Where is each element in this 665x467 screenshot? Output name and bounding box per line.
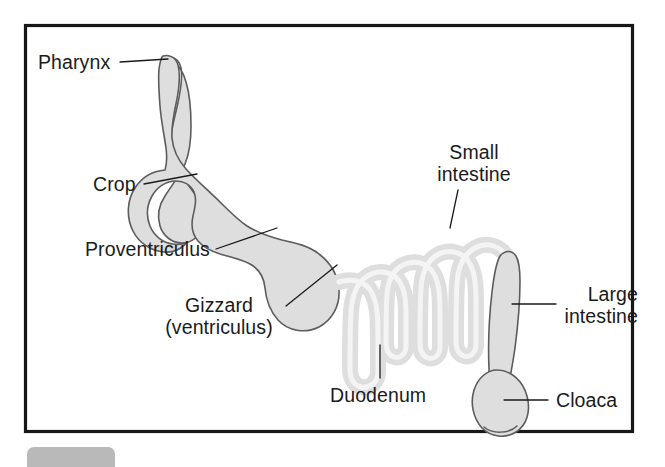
label-large-intestine-line2: intestine: [528, 305, 638, 328]
small-intestine-coil: [339, 245, 508, 388]
label-proventriculus: Proventriculus: [85, 238, 210, 261]
bottom-gray-artifact: [27, 447, 115, 467]
label-small-intestine-line1: Small: [420, 141, 528, 164]
label-large-intestine-line1: Large: [528, 283, 638, 306]
label-cloaca: Cloaca: [556, 389, 617, 412]
label-gizzard-line2: (ventriculus): [140, 316, 298, 339]
cloaca-shape: [472, 370, 528, 436]
label-duodenum: Duodenum: [330, 384, 426, 407]
label-gizzard-line1: Gizzard: [140, 294, 298, 317]
label-pharynx: Pharynx: [38, 51, 110, 74]
leader-line-small-intestine: [450, 190, 458, 228]
label-small-intestine-line2: intestine: [420, 163, 528, 186]
figure-frame: [26, 26, 633, 432]
label-crop: Crop: [93, 173, 136, 196]
